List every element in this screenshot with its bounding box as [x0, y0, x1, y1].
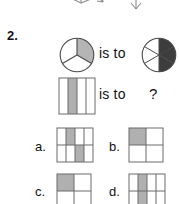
option-label-c: c.: [35, 184, 45, 199]
option-figure-d[interactable]: [128, 173, 166, 204]
cube-outline-partial: [62, 0, 103, 3]
option-label-a: a.: [35, 139, 46, 154]
previous-item-shapes: [0, 0, 179, 14]
pie-six-sectors: [141, 37, 177, 73]
option-label-b: b.: [109, 139, 120, 154]
option-a-shaded-cell-top: [66, 128, 75, 145]
relation-text-row1: is to: [99, 45, 126, 61]
option-label-d: d.: [109, 184, 120, 199]
option-c-shaded-cell: [57, 174, 74, 191]
option-figure-b[interactable]: [128, 127, 164, 163]
square-four-vertical-strips: [58, 77, 96, 115]
option-b-shaded-cell: [129, 128, 146, 145]
option-d-shaded-strip: [138, 174, 147, 204]
option-a-shaded-cell-bottom: [75, 145, 84, 162]
pyramid-outline-partial: [122, 0, 150, 9]
option-figure-c[interactable]: [56, 173, 94, 204]
question-number: 2.: [7, 28, 18, 43]
unknown-answer-placeholder: ?: [149, 85, 157, 102]
pie-three-sectors: [59, 37, 95, 73]
strip-shaded: [68, 78, 77, 114]
relation-text-row2: is to: [99, 86, 126, 102]
option-figure-a[interactable]: [56, 127, 94, 163]
